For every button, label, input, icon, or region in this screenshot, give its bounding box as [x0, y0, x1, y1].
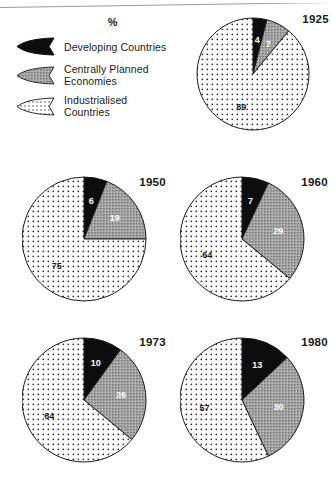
- wedge-icon-industrialised: [16, 97, 56, 116]
- wedge-icon-developing: [16, 37, 56, 56]
- legend-item-developing: Developing Countries: [16, 37, 176, 56]
- pie-chart-1925: 1925 4789: [196, 8, 331, 140]
- legend: % Developing Countries Centrally Planned…: [16, 16, 176, 125]
- legend-title: %: [50, 16, 176, 28]
- wedge-icon-centrally-planned: [16, 66, 56, 85]
- pie-svg-1973: 102664: [22, 318, 150, 466]
- pie-1950: 61975: [22, 160, 150, 309]
- pie-chart-1973: 1973 102664: [22, 318, 172, 473]
- pie-1925: 4789: [196, 8, 313, 138]
- legend-label-developing: Developing Countries: [64, 41, 166, 53]
- pie-chart-1950: 1950 61975: [22, 160, 172, 310]
- pie-chart-1960: 1960 72964: [180, 160, 330, 310]
- pie-1980: 133057: [180, 318, 308, 470]
- legend-item-industrialised: Industrialised Countries: [16, 94, 176, 118]
- legend-label-industrialised: Industrialised Countries: [64, 94, 176, 118]
- pie-1960: 72964: [180, 160, 308, 309]
- pie-svg-1925: 4789: [196, 8, 313, 134]
- pie-1973: 102664: [22, 318, 150, 470]
- pie-svg-1950: 61975: [22, 160, 150, 305]
- legend-item-centrally-planned: Centrally Planned Economies: [16, 63, 176, 87]
- pie-slice-industrialised-1925: [197, 18, 309, 130]
- pie-svg-1980: 133057: [180, 318, 308, 466]
- pie-svg-1960: 72964: [180, 160, 308, 305]
- pie-chart-1980: 1980 133057: [180, 318, 330, 473]
- legend-label-centrally-planned: Centrally Planned Economies: [64, 63, 149, 87]
